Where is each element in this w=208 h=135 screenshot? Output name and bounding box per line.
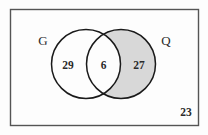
set-label-q: Q [161,33,171,48]
region-count-outside: 23 [180,106,192,118]
venn-diagram-figure: G Q 29 6 27 23 [0,0,208,135]
region-count-q-only: 27 [133,59,145,71]
set-label-g: G [38,33,47,48]
venn-diagram-canvas: G Q 29 6 27 23 [0,0,208,135]
region-count-intersection: 6 [101,59,107,71]
region-count-g-only: 29 [62,59,74,71]
